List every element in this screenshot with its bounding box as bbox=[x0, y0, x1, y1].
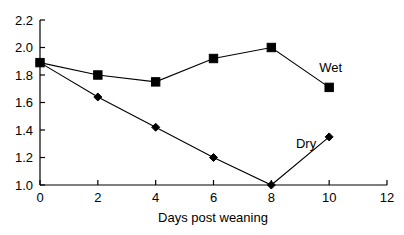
series-label-wet: Wet bbox=[319, 60, 342, 75]
y-axis-tick-labels: 1.01.21.41.61.82.02.2 bbox=[15, 13, 33, 193]
data-point-wet bbox=[325, 83, 333, 91]
y-axis-tick-label: 1.6 bbox=[15, 95, 33, 110]
x-axis-tick-label: 12 bbox=[380, 190, 394, 205]
x-axis-tick-label: 2 bbox=[94, 190, 101, 205]
x-axis-tick-label: 10 bbox=[322, 190, 336, 205]
x-axis-group: 024681012 bbox=[36, 180, 394, 205]
x-axis-tick-labels: 024681012 bbox=[36, 190, 394, 205]
data-point-dry bbox=[94, 93, 102, 101]
data-point-wet bbox=[267, 43, 275, 51]
data-point-dry bbox=[210, 154, 218, 162]
y-axis-ticks bbox=[40, 20, 45, 185]
series-markers-group bbox=[36, 43, 334, 189]
series-line-wet bbox=[40, 48, 329, 88]
data-point-wet bbox=[151, 78, 159, 86]
series-label-dry: Dry bbox=[296, 136, 317, 151]
y-axis-tick-label: 2.2 bbox=[15, 13, 33, 28]
data-point-wet bbox=[94, 71, 102, 79]
x-axis-tick-label: 8 bbox=[268, 190, 275, 205]
data-point-dry bbox=[152, 123, 160, 131]
series-inline-labels-group: WetDry bbox=[296, 60, 343, 151]
series-lines-group bbox=[40, 48, 329, 186]
y-axis-tick-label: 1.8 bbox=[15, 68, 33, 83]
x-axis-tick-label: 4 bbox=[152, 190, 159, 205]
x-axis-tick-label: 6 bbox=[210, 190, 217, 205]
y-axis-tick-label: 1.2 bbox=[15, 150, 33, 165]
x-axis-ticks bbox=[40, 180, 387, 185]
y-axis-tick-label: 1.4 bbox=[15, 123, 33, 138]
line-chart: 1.01.21.41.61.82.02.2 024681012 WetDry D… bbox=[0, 0, 404, 235]
x-axis-tick-label: 0 bbox=[36, 190, 43, 205]
y-axis-tick-label: 2.0 bbox=[15, 40, 33, 55]
y-axis-tick-label: 1.0 bbox=[15, 178, 33, 193]
series-line-dry bbox=[40, 63, 329, 185]
chart-canvas: 1.01.21.41.61.82.02.2 024681012 WetDry D… bbox=[0, 0, 404, 235]
x-axis-title: Days post weaning bbox=[158, 210, 268, 225]
data-point-wet bbox=[209, 54, 217, 62]
y-axis-group: 1.01.21.41.61.82.02.2 bbox=[15, 13, 45, 193]
